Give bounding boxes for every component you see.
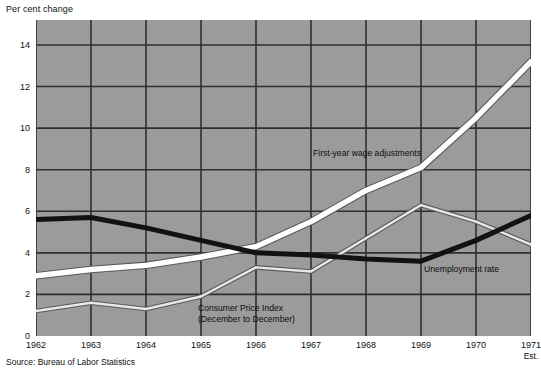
series-label-cpi: Consumer Price Index (December to Decemb… (198, 303, 295, 324)
x-tick-label-1964: 1964 (136, 340, 156, 350)
y-axis-title: Per cent change (6, 4, 73, 14)
series-label-unemployment: Unemployment rate (424, 264, 499, 275)
x-tick-label-1970: 1970 (466, 340, 486, 350)
x-tick-label-1971: 1971Est. (521, 340, 541, 361)
y-tick-label-2: 2 (2, 289, 30, 299)
y-tick-label-8: 8 (2, 165, 30, 175)
y-tick-label-6: 6 (2, 206, 30, 216)
x-tick-label-1968: 1968 (356, 340, 376, 350)
x-tick-label-1966: 1966 (246, 340, 266, 350)
x-tick-label-1962: 1962 (26, 340, 46, 350)
x-tick-label-1965: 1965 (191, 340, 211, 350)
y-tick-label-10: 10 (2, 123, 30, 133)
x-tick-label-1963: 1963 (81, 340, 101, 350)
y-tick-label-12: 12 (2, 82, 30, 92)
y-tick-label-14: 14 (2, 40, 30, 50)
series-label-wage: First-year wage adjustments (313, 148, 421, 159)
x-tick-label-1967: 1967 (301, 340, 321, 350)
y-tick-label-4: 4 (2, 248, 30, 258)
series-label-cpi-line1: Consumer Price Index (198, 303, 283, 313)
plot-svg (36, 20, 531, 336)
plot-area (36, 20, 531, 336)
x-tick-sublabel-est: Est. (521, 351, 541, 361)
series-label-cpi-line2: (December to December) (198, 314, 295, 324)
source-note: Source: Bureau of Labor Statistics (6, 357, 135, 367)
x-tick-label-1969: 1969 (411, 340, 431, 350)
